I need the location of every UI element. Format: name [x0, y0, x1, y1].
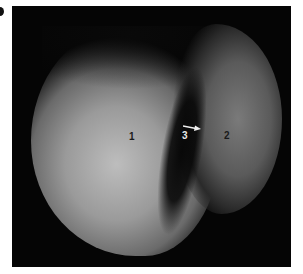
annotation-label-3: 3: [182, 131, 188, 141]
endoscopic-image: 1 2 3: [12, 6, 291, 267]
annotation-label-2: 2: [224, 131, 230, 141]
annotation-label-1: 1: [129, 132, 135, 142]
panel-label-mark: [0, 7, 4, 16]
arrow-icon: [183, 124, 201, 132]
